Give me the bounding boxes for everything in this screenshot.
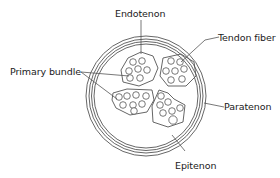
label-tendon-fiber: Tendon fiber: [218, 33, 276, 43]
label-paratenon: Paratenon: [224, 102, 271, 112]
label-primary-bundle: Primary bundle: [10, 67, 81, 77]
label-epitenon: Epitenon: [175, 161, 216, 171]
leader-paratenon: [204, 103, 224, 107]
tendon-cross-section-diagram: Endotenon Tendon fiber Primary bundle Pa…: [0, 0, 280, 178]
tendon-illustration: [0, 0, 280, 178]
label-endotenon: Endotenon: [115, 9, 165, 19]
leader-tendon-fiber-a: [205, 37, 219, 40]
tendon-fibers: [116, 58, 188, 125]
